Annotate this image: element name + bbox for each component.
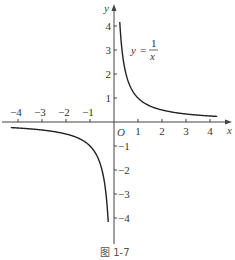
y-tick-label: 2 — [106, 68, 112, 80]
function-annotation: y = 1 x — [130, 37, 158, 62]
x-tick-label: 1 — [135, 125, 141, 137]
y-axis-arrow-icon — [112, 4, 117, 11]
curve-positive-branch — [120, 22, 217, 116]
y-tick-label: 3 — [106, 44, 112, 56]
formula-denominator: x — [149, 50, 155, 62]
x-tick-label: 3 — [183, 125, 189, 137]
formula-numerator: 1 — [151, 37, 157, 49]
y-tick-label: 4 — [106, 20, 112, 32]
x-tick-label: 4 — [207, 125, 213, 137]
y-tick-label: −4 — [118, 212, 130, 224]
x-tick-label: −4 — [10, 106, 22, 118]
y-tick-label: −3 — [118, 188, 130, 200]
axes — [2, 4, 232, 244]
y-axis-label: y — [103, 2, 109, 14]
y-tick-label: 1 — [106, 92, 112, 104]
hyperbola-chart: −4−3−2−11234 −4−3−2−11234 x y O y = 1 x … — [0, 0, 235, 260]
x-tick-label: −3 — [34, 106, 46, 118]
x-tick-label: −1 — [82, 106, 94, 118]
formula-equals: = — [140, 44, 146, 56]
curve-negative-branch — [11, 128, 108, 222]
x-tick-label: −2 — [58, 106, 70, 118]
y-tick-label: −2 — [118, 164, 130, 176]
origin-label: O — [117, 126, 125, 138]
formula-lhs: y — [130, 44, 136, 56]
figure-caption: 图 1-7 — [100, 247, 130, 258]
x-axis-label: x — [226, 124, 232, 136]
y-tick-label: −1 — [118, 140, 130, 152]
x-tick-label: 2 — [159, 125, 165, 137]
